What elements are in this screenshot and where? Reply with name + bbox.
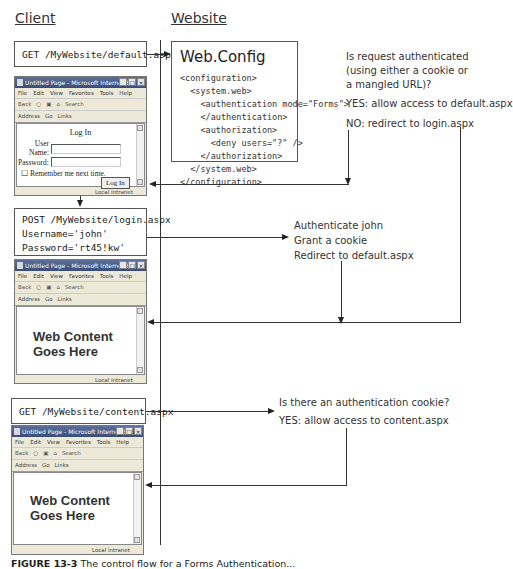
statusbar: Local intranet [12, 545, 143, 555]
login-title: Log In [17, 124, 144, 137]
menu-help[interactable]: Help [119, 271, 132, 281]
ie-icon [17, 262, 23, 269]
arrow-left-icon [145, 482, 152, 488]
menu-edit[interactable]: Edit [30, 437, 41, 447]
stop-icon[interactable]: ▣ [46, 282, 51, 293]
go-button[interactable]: Go [45, 111, 53, 122]
stop-icon[interactable]: ▣ [43, 448, 48, 459]
scroll-down-icon[interactable] [134, 537, 140, 543]
browser-viewport: Log In User Name: Password: ☐ Remember m… [16, 123, 145, 187]
arrow-get-default-line [147, 54, 164, 55]
note-line: a mangled URL)? [346, 78, 469, 92]
ie-icon [17, 79, 23, 86]
menu-tools[interactable]: Tools [100, 271, 114, 281]
browser-titlebar: Untitled Page - Microsoft Internet E... … [15, 77, 146, 88]
search-button[interactable]: Search [65, 282, 84, 293]
arrow-get-content-line [146, 411, 268, 412]
username-label: User Name: [23, 139, 49, 157]
minimize-button[interactable]: _ [116, 427, 124, 435]
note-line: Authenticate john [294, 218, 414, 233]
menu-file[interactable]: File [18, 88, 27, 98]
webconfig-box: Web.Config <configuration> <system.web> … [171, 41, 298, 162]
maximize-button[interactable]: □ [128, 261, 136, 269]
ie-icon [14, 428, 20, 435]
forward-button[interactable]: ○ [36, 99, 41, 110]
address-bar: Address Go Links [15, 111, 146, 123]
minimize-button[interactable]: _ [119, 78, 127, 86]
remember-checkbox[interactable]: ☐ Remember me next time. [21, 169, 106, 178]
status-zone: Local intranet [92, 545, 130, 555]
back-button[interactable]: Back [18, 99, 31, 110]
browser-viewport: Web Content Goes Here [13, 472, 142, 545]
menu-view[interactable]: View [50, 271, 63, 281]
maximize-button[interactable]: □ [128, 78, 136, 86]
minimize-button[interactable]: _ [119, 261, 127, 269]
client-heading: Client [15, 10, 56, 26]
menu-file[interactable]: File [15, 437, 24, 447]
scroll-down-icon[interactable] [137, 179, 143, 185]
request-get-default: GET /MyWebsite/default.aspx [14, 41, 147, 67]
menu-favorites[interactable]: Favorites [69, 271, 94, 281]
search-button[interactable]: Search [62, 448, 81, 459]
no-path-line [348, 130, 349, 182]
links-button[interactable]: Links [58, 294, 72, 305]
browser-viewport: Web Content Goes Here [16, 306, 145, 375]
close-button[interactable]: × [134, 427, 142, 435]
browser-titlebar: Untitled Page - Microsoft Internet E... … [12, 426, 143, 437]
go-button[interactable]: Go [42, 460, 50, 471]
note-login-steps: Authenticate john Grant a cookie Redirec… [294, 218, 414, 263]
menu-tools[interactable]: Tools [97, 437, 111, 447]
maximize-button[interactable]: □ [125, 427, 133, 435]
scroll-up-icon[interactable] [137, 125, 143, 131]
go-button[interactable]: Go [45, 294, 53, 305]
figure-caption: FIGURE 13-3 The control flow for a Forms… [11, 558, 295, 569]
arrow-left-icon [149, 181, 156, 187]
vertical-scrollbar[interactable] [133, 473, 141, 544]
vertical-scrollbar[interactable] [136, 124, 144, 186]
window-buttons: _ □ × [119, 78, 145, 86]
close-button[interactable]: × [137, 78, 145, 86]
forward-button[interactable]: ○ [36, 282, 41, 293]
links-button[interactable]: Links [58, 111, 72, 122]
note-cookie-check: Is there an authentication cookie? [279, 396, 449, 410]
username-input[interactable] [51, 144, 121, 154]
scroll-up-icon[interactable] [137, 308, 143, 314]
address-label: Address [18, 294, 40, 305]
menu-file[interactable]: File [18, 271, 27, 281]
browser-titlebar: Untitled Page - Microsoft Internet E... … [15, 260, 146, 271]
search-button[interactable]: Search [65, 99, 84, 110]
menu-view[interactable]: View [50, 88, 63, 98]
password-input[interactable] [51, 157, 121, 167]
toolbar: Back ○ ▣ ⌂ Search [12, 448, 143, 460]
home-icon[interactable]: ⌂ [53, 448, 57, 459]
back-button[interactable]: Back [18, 282, 31, 293]
menu-favorites[interactable]: Favorites [69, 88, 94, 98]
scroll-up-icon[interactable] [134, 474, 140, 480]
vertical-scrollbar[interactable] [136, 307, 144, 374]
forward-button[interactable]: ○ [33, 448, 38, 459]
stop-icon[interactable]: ▣ [46, 99, 51, 110]
menubar: File Edit View Favorites Tools Help [15, 88, 146, 99]
menu-favorites[interactable]: Favorites [66, 437, 91, 447]
web-content-text: Web Content Goes Here [33, 329, 113, 359]
back-button[interactable]: Back [15, 448, 28, 459]
home-icon[interactable]: ⌂ [56, 282, 60, 293]
menubar: File Edit View Favorites Tools Help [12, 437, 143, 448]
close-button[interactable]: × [137, 261, 145, 269]
toolbar: Back ○ ▣ ⌂ Search [15, 99, 146, 111]
browser-default-page: Untitled Page - Microsoft Internet E... … [14, 259, 147, 384]
window-buttons: _ □ × [119, 261, 145, 269]
scroll-down-icon[interactable] [137, 367, 143, 373]
home-icon[interactable]: ⌂ [56, 99, 60, 110]
menu-edit[interactable]: Edit [33, 271, 44, 281]
menu-tools[interactable]: Tools [100, 88, 114, 98]
note-auth-yes: YES: allow access to default.aspx [346, 97, 513, 111]
menu-edit[interactable]: Edit [33, 88, 44, 98]
menu-help[interactable]: Help [119, 88, 132, 98]
menu-view[interactable]: View [47, 437, 60, 447]
note-auth-check: Is request authenticated (using either a… [346, 50, 469, 92]
arrow-right-icon [268, 408, 275, 414]
menu-help[interactable]: Help [116, 437, 129, 447]
links-button[interactable]: Links [55, 460, 69, 471]
status-zone: Local intranet [95, 187, 133, 197]
